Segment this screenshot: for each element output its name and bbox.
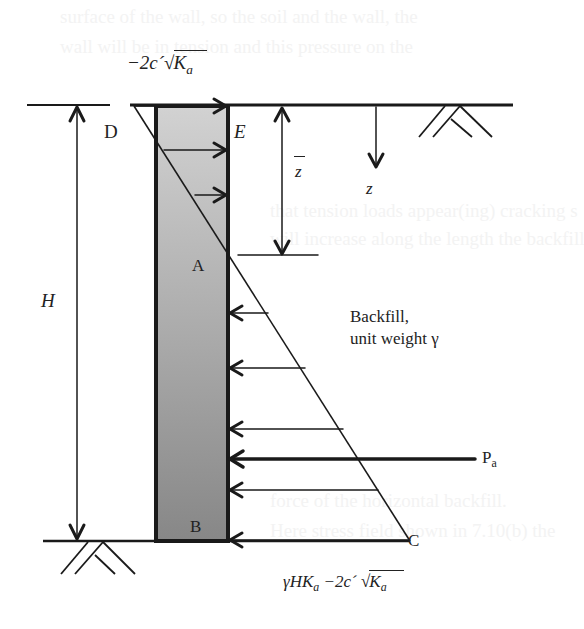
top-tension-label: −2c´√Ka bbox=[127, 50, 207, 76]
bottom-prefix: γHK bbox=[283, 572, 313, 591]
bottom-mid: −2c´ bbox=[319, 572, 361, 591]
depth-z-arrow bbox=[369, 107, 383, 167]
resultant-subscript: a bbox=[491, 456, 496, 470]
depth-z-label: z bbox=[366, 180, 373, 197]
point-d-label: D bbox=[104, 122, 118, 141]
resultant-label: Pa bbox=[482, 449, 497, 470]
height-dimension-arrow bbox=[70, 107, 84, 539]
zbar-text: z bbox=[294, 156, 305, 180]
resultant-force-arrow bbox=[230, 451, 475, 467]
height-label: H bbox=[41, 291, 55, 310]
wall bbox=[156, 106, 228, 541]
k-symbol-bottom: K bbox=[369, 572, 380, 591]
backfill-line-1: Backfill, bbox=[350, 306, 439, 328]
bottom-pressure-label: γHKa −2c´ √Ka bbox=[283, 570, 404, 594]
backfill-line-2: unit weight γ bbox=[350, 328, 439, 350]
point-a-label: A bbox=[192, 257, 204, 274]
tension-prefix: −2c´ bbox=[127, 52, 164, 73]
k-symbol: K bbox=[174, 52, 187, 73]
zbar-label: z bbox=[294, 156, 305, 180]
point-c-label: C bbox=[408, 532, 419, 549]
backfill-label: Backfill, unit weight γ bbox=[350, 306, 439, 350]
k-subscript: a bbox=[186, 62, 193, 77]
sqrt-ka-bottom: Ka bbox=[369, 570, 403, 594]
ground-hatch-icon-bottom bbox=[61, 542, 135, 574]
point-e-label: E bbox=[234, 122, 246, 141]
k-subscript-bottom: a bbox=[381, 580, 387, 594]
sqrt-ka: Ka bbox=[174, 50, 208, 76]
zbar-dimension-arrow bbox=[238, 108, 318, 255]
point-b-label: B bbox=[190, 518, 201, 535]
ground-hatch-icon-top bbox=[419, 106, 492, 137]
